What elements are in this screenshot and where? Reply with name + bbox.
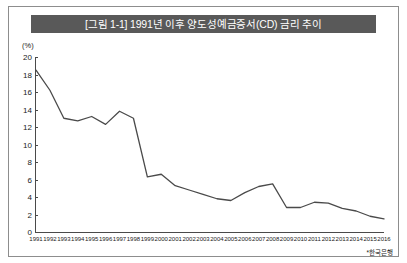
x-axis-tick-label: 2007	[252, 236, 265, 242]
x-axis-tick-label: 1996	[99, 236, 112, 242]
y-axis-tick-mark	[35, 75, 38, 76]
x-axis-tick-label: 2009	[280, 236, 293, 242]
y-axis-tick-label: 6	[12, 175, 32, 184]
figure-title: [그림 1-1] 1991년 이후 양도성예금증서(CD) 금리 추이	[31, 15, 376, 33]
x-axis-tick-label: 2016	[377, 236, 390, 242]
x-axis-tick-label: 2010	[294, 236, 307, 242]
x-axis-tick-label: 1998	[127, 236, 140, 242]
plot-area	[36, 57, 384, 232]
source-note: *한국은행	[366, 247, 393, 257]
x-axis-tick-label: 2005	[224, 236, 237, 242]
x-axis-tick-label: 2012	[322, 236, 335, 242]
y-axis-tick-mark	[35, 127, 38, 128]
x-axis-tick-label: 2006	[238, 236, 251, 242]
y-axis-tick-label: 2	[12, 210, 32, 219]
figure-container: [그림 1-1] 1991년 이후 양도성예금증서(CD) 금리 추이 (%) …	[0, 0, 407, 263]
x-axis-tick-label: 2013	[336, 236, 349, 242]
y-axis-tick-mark	[35, 162, 38, 163]
x-axis-tick-label: 1995	[85, 236, 98, 242]
y-axis-unit-label: (%)	[22, 41, 34, 50]
y-axis-tick-label: 14	[12, 105, 32, 114]
x-axis-tick-label: 2014	[349, 236, 362, 242]
cd-rate-line-series	[36, 57, 384, 232]
y-axis-tick-mark	[35, 215, 38, 216]
y-axis-tick-mark	[35, 232, 38, 233]
x-axis-tick-label: 1993	[57, 236, 70, 242]
x-axis-tick-label: 1997	[113, 236, 126, 242]
y-axis-tick-mark	[35, 110, 38, 111]
y-axis-tick-label: 8	[12, 158, 32, 167]
x-axis-tick-label: 2015	[363, 236, 376, 242]
y-axis-tick-mark	[35, 180, 38, 181]
x-axis-tick-label: 2004	[210, 236, 223, 242]
y-axis-tick-label: 18	[12, 70, 32, 79]
x-axis-labels: 1991199219931994199519961997199819992000…	[36, 236, 384, 248]
x-axis-tick-label: 1992	[43, 236, 56, 242]
x-axis-tick-label: 2011	[308, 236, 321, 242]
y-axis-labels: 02468101214161820	[10, 57, 32, 233]
y-axis-tick-label: 20	[12, 53, 32, 62]
x-axis-tick-label: 1991	[29, 236, 42, 242]
x-axis-tick-label: 1999	[141, 236, 154, 242]
x-axis-tick-label: 1994	[71, 236, 84, 242]
y-axis-tick-label: 4	[12, 193, 32, 202]
x-axis-tick-label: 2002	[182, 236, 195, 242]
y-axis-tick-label: 10	[12, 140, 32, 149]
y-axis-tick-label: 16	[12, 88, 32, 97]
x-axis-line	[35, 232, 384, 233]
x-axis-tick-label: 2003	[196, 236, 209, 242]
x-axis-tick-label: 2008	[266, 236, 279, 242]
y-axis-tick-mark	[35, 92, 38, 93]
y-axis-tick-mark	[35, 57, 38, 58]
y-axis-tick-label: 12	[12, 123, 32, 132]
y-axis-tick-mark	[35, 197, 38, 198]
x-axis-tick-label: 2001	[169, 236, 182, 242]
x-axis-tick-label: 2000	[155, 236, 168, 242]
y-axis-tick-mark	[35, 145, 38, 146]
